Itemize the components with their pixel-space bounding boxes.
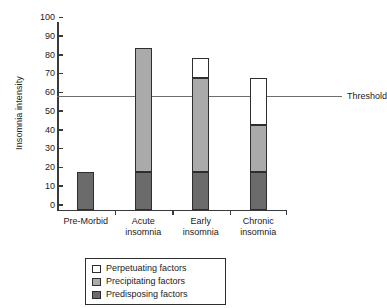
y-axis-tick-mark xyxy=(59,54,63,56)
bar-segment xyxy=(250,125,267,172)
chart-legend: Perpetuating factorsPrecipitating factor… xyxy=(85,258,226,305)
bar-segment xyxy=(192,78,209,172)
threshold-label: Threshold xyxy=(347,91,387,101)
y-axis-tick-label: 10 xyxy=(45,181,55,191)
bar-group xyxy=(250,78,267,209)
y-axis-tick: 90 xyxy=(25,31,63,41)
y-axis-tick: 20 xyxy=(25,162,63,172)
y-axis-tick-mark xyxy=(59,92,63,94)
y-axis-tick-mark xyxy=(59,148,63,150)
y-axis-tick-label: 50 xyxy=(45,106,55,116)
y-axis-tick: 70 xyxy=(25,68,63,78)
x-axis-category-label: Pre-Morbid xyxy=(57,216,115,227)
bar-group xyxy=(77,172,94,210)
x-axis-category-label: Early insomnia xyxy=(172,216,230,238)
y-axis-tick-label: 80 xyxy=(45,50,55,60)
y-axis-tick: 100 xyxy=(25,12,63,22)
y-axis-tick: 10 xyxy=(25,181,63,191)
legend-swatch xyxy=(92,291,101,299)
bar-segment xyxy=(135,172,152,210)
y-axis-tick-label: 90 xyxy=(45,31,55,41)
y-axis-tick-mark xyxy=(59,129,63,131)
y-axis-title: Insomnia intensity xyxy=(14,38,24,188)
y-axis-tick-mark xyxy=(59,185,63,187)
y-axis-tick: 30 xyxy=(25,143,63,153)
y-axis-tick-mark xyxy=(59,35,63,37)
bar-group xyxy=(135,48,152,209)
x-axis-tick-mark xyxy=(172,211,174,215)
y-axis-tick: 40 xyxy=(25,125,63,135)
bar-segment xyxy=(135,48,152,172)
y-axis-tick-mark xyxy=(59,167,63,169)
legend-label: Precipitating factors xyxy=(106,276,185,287)
y-axis-tick-label: 0 xyxy=(50,200,55,210)
y-axis-tick-mark xyxy=(59,204,63,206)
y-axis-tick-label: 60 xyxy=(45,87,55,97)
legend-label: Perpetuating factors xyxy=(106,263,187,274)
legend-label: Predisposing factors xyxy=(106,289,188,300)
x-axis-category-label: Acute insomnia xyxy=(115,216,173,238)
legend-item: Precipitating factors xyxy=(92,275,220,288)
bar-segment xyxy=(250,172,267,210)
legend-swatch xyxy=(92,278,101,286)
x-axis-tick-mark xyxy=(286,211,288,215)
y-axis-tick-label: 70 xyxy=(45,68,55,78)
y-axis-tick-mark xyxy=(59,73,63,75)
legend-item: Perpetuating factors xyxy=(92,262,220,275)
y-axis-tick-label: 20 xyxy=(45,162,55,172)
x-axis-tick-mark xyxy=(115,211,117,215)
legend-swatch xyxy=(92,265,101,273)
y-axis-tick: 80 xyxy=(25,50,63,60)
bar-group xyxy=(192,58,209,210)
bar-segment xyxy=(250,78,267,125)
y-axis-tick-label: 30 xyxy=(45,143,55,153)
legend-item: Predisposing factors xyxy=(92,288,220,301)
y-axis-tick-mark xyxy=(59,17,63,19)
y-axis-tick-label: 100 xyxy=(40,12,55,22)
y-axis-tick: 0 xyxy=(25,200,63,210)
bar-segment xyxy=(192,58,209,79)
y-axis-tick: 50 xyxy=(25,106,63,116)
plot-area: 1009080706050403020100 xyxy=(57,22,287,211)
y-axis-tick-label: 40 xyxy=(45,125,55,135)
y-axis-tick-mark xyxy=(59,110,63,112)
bar-segment xyxy=(192,172,209,210)
x-axis-tick-mark xyxy=(230,211,232,215)
x-axis-category-label: Chronic insomnia xyxy=(230,216,288,238)
bar-segment xyxy=(77,172,94,210)
